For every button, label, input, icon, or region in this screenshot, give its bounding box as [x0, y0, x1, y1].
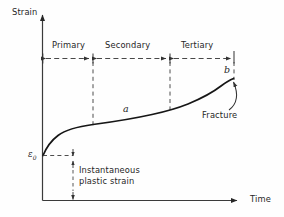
initial-strain-leader-group — [43, 149, 73, 156]
stage-label-secondary: Secondary — [105, 41, 150, 51]
stage-label-primary: Primary — [52, 41, 85, 51]
instantaneous-line-1: Instantaneous — [79, 165, 140, 175]
curve-label-b: b — [224, 65, 230, 75]
epsilon-subscript: 0 — [33, 154, 37, 161]
fracture-leader-group — [229, 82, 237, 110]
y-axis-label: Strain — [12, 8, 37, 18]
x-axis-label: Time — [250, 195, 271, 205]
fracture-label: Fracture — [202, 111, 237, 121]
creep-curve-figure: Strain Time Primary Secondary Tertiary ε… — [0, 0, 284, 217]
fracture-leader-arrow — [229, 82, 237, 110]
stage-bar-group — [43, 51, 234, 64]
instantaneous-plastic-strain-label: Instantaneous plastic strain — [79, 165, 149, 186]
initial-strain-label: ε0 — [28, 150, 37, 162]
curve-label-a: a — [123, 104, 129, 114]
instantaneous-line-2: plastic strain — [79, 176, 134, 186]
stage-label-tertiary: Tertiary — [181, 41, 213, 51]
